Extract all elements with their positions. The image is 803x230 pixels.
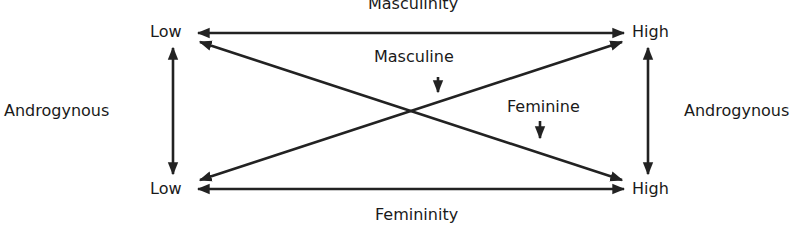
femininity-axis-label: Femininity bbox=[375, 206, 458, 224]
masculine-label: Masculine bbox=[374, 48, 454, 66]
feminine-label: Feminine bbox=[507, 98, 580, 116]
right-androgynous-label: Androgynous bbox=[684, 102, 789, 120]
bottom-right-high-label: High bbox=[632, 180, 669, 198]
bottom-left-low-label: Low bbox=[150, 180, 182, 198]
top-right-high-label: High bbox=[632, 23, 669, 41]
left-androgynous-label: Androgynous bbox=[4, 102, 109, 120]
masculinity-axis-label: Masculinity bbox=[368, 0, 458, 13]
androgyny-diagram: Masculinity Low High Low High Femininity… bbox=[0, 0, 803, 230]
top-left-low-label: Low bbox=[150, 23, 182, 41]
diagram-arrows bbox=[0, 0, 803, 230]
